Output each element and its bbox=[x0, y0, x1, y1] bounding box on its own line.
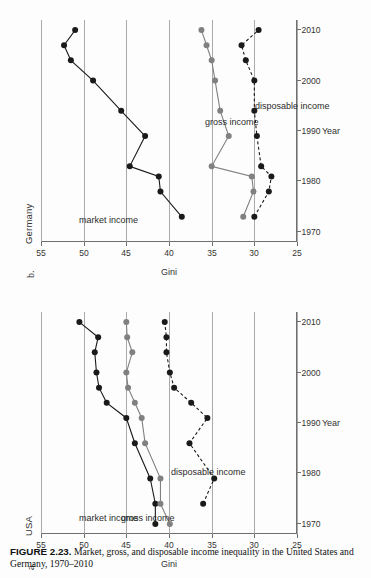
data-point bbox=[93, 370, 99, 376]
data-point bbox=[200, 501, 206, 507]
x-tick-label-1990: 1990 bbox=[301, 418, 320, 428]
data-point bbox=[186, 440, 192, 446]
x-tick-1970 bbox=[297, 523, 301, 524]
figure-plate: a. USA Gini Year 55504540353025197019801… bbox=[21, 0, 351, 578]
data-point bbox=[161, 319, 167, 325]
x-axis-title-germany: Year bbox=[321, 126, 339, 136]
data-point bbox=[138, 415, 144, 421]
data-point bbox=[129, 349, 135, 355]
data-point bbox=[126, 163, 132, 169]
series-label-disposable: disposable income bbox=[254, 101, 329, 111]
plot-area-usa: Gini Year 555045403530251970198019902000… bbox=[41, 312, 297, 534]
y-tick-label-45: 45 bbox=[121, 249, 130, 259]
data-point bbox=[225, 133, 231, 139]
y-tick-45 bbox=[126, 242, 127, 246]
data-point bbox=[96, 385, 102, 391]
data-point bbox=[250, 189, 256, 195]
data-point bbox=[253, 133, 259, 139]
x-tick-label-2010: 2010 bbox=[301, 317, 320, 327]
data-point bbox=[123, 370, 129, 376]
data-point bbox=[198, 27, 204, 33]
data-point bbox=[91, 349, 97, 355]
x-tick-1970 bbox=[297, 231, 301, 232]
series-line-market-income bbox=[79, 322, 155, 524]
y-tick-label-55: 55 bbox=[36, 249, 45, 259]
data-point bbox=[240, 214, 246, 220]
data-point bbox=[131, 400, 137, 406]
data-point bbox=[125, 385, 131, 391]
x-tick-label-1990: 1990 bbox=[301, 126, 320, 136]
y-tick-45 bbox=[126, 534, 127, 538]
panel-title-germany: Germany bbox=[23, 204, 34, 244]
y-axis-title-germany: Gini bbox=[160, 267, 176, 277]
x-axis-title-usa: Year bbox=[321, 418, 339, 428]
data-point bbox=[155, 173, 161, 179]
x-tick-1990 bbox=[297, 422, 301, 423]
data-point bbox=[163, 334, 169, 340]
series-label-gross: gross income bbox=[120, 513, 174, 523]
panel-title-usa: USA bbox=[23, 516, 34, 536]
data-point bbox=[72, 27, 78, 33]
x-tick-2010 bbox=[297, 29, 301, 30]
y-tick-label-25: 25 bbox=[292, 249, 301, 259]
data-point bbox=[166, 370, 172, 376]
data-point bbox=[208, 57, 214, 63]
data-point bbox=[238, 42, 244, 48]
data-point bbox=[268, 173, 274, 179]
x-tick-2000 bbox=[297, 80, 301, 81]
x-tick-2010 bbox=[297, 321, 301, 322]
x-tick-1980 bbox=[297, 180, 301, 181]
plot-area-germany: Gini Year 555045403530251970198019902000… bbox=[41, 20, 297, 242]
y-tick-label-40: 40 bbox=[164, 249, 173, 259]
x-tick-label-2000: 2000 bbox=[301, 76, 320, 86]
data-point bbox=[157, 476, 163, 482]
data-point bbox=[131, 440, 137, 446]
y-tick-40 bbox=[169, 534, 170, 538]
y-tick-55 bbox=[41, 534, 42, 538]
panel-letter-b: b. bbox=[25, 271, 36, 279]
y-tick-40 bbox=[169, 242, 170, 246]
panel-germany: b. Germany Gini Year 5550454035302519701… bbox=[21, 8, 351, 278]
data-point bbox=[124, 334, 130, 340]
y-tick-35 bbox=[211, 534, 212, 538]
x-tick-label-2010: 2010 bbox=[301, 25, 320, 35]
figure-page: a. USA Gini Year 55504540353025197019801… bbox=[0, 0, 371, 578]
series-canvas bbox=[41, 312, 297, 534]
x-tick-label-2000: 2000 bbox=[301, 368, 320, 378]
data-point bbox=[217, 108, 223, 114]
data-point bbox=[157, 189, 163, 195]
data-point bbox=[76, 319, 82, 325]
y-tick-30 bbox=[254, 242, 255, 246]
y-tick-35 bbox=[211, 242, 212, 246]
data-point bbox=[203, 42, 209, 48]
series-label-gross: gross income bbox=[205, 117, 259, 127]
data-point bbox=[242, 57, 248, 63]
y-tick-label-30: 30 bbox=[249, 249, 258, 259]
y-tick-25 bbox=[297, 242, 298, 246]
y-tick-label-50: 50 bbox=[78, 249, 87, 259]
data-point bbox=[61, 42, 67, 48]
data-point bbox=[123, 319, 129, 325]
y-tick-30 bbox=[254, 534, 255, 538]
data-point bbox=[103, 400, 109, 406]
series-label-disposable: disposable income bbox=[171, 467, 246, 477]
data-point bbox=[251, 78, 257, 84]
x-tick-2000 bbox=[297, 372, 301, 373]
data-point bbox=[67, 57, 73, 63]
x-tick-1980 bbox=[297, 472, 301, 473]
data-point bbox=[163, 349, 169, 355]
panel-usa: a. USA Gini Year 55504540353025197019801… bbox=[21, 300, 351, 570]
figure-number: FIGURE 2.23. bbox=[10, 546, 72, 557]
x-tick-label-1970: 1970 bbox=[301, 519, 320, 529]
data-point bbox=[265, 189, 271, 195]
series-line-market-income bbox=[64, 30, 182, 217]
data-point bbox=[142, 440, 148, 446]
y-tick-25 bbox=[297, 534, 298, 538]
figure-caption: FIGURE 2.23. Market, gross, and disposab… bbox=[0, 546, 371, 578]
data-point bbox=[208, 163, 214, 169]
y-tick-50 bbox=[83, 242, 84, 246]
series-canvas bbox=[41, 20, 297, 242]
y-tick-50 bbox=[83, 534, 84, 538]
data-point bbox=[212, 78, 218, 84]
series-label-market: market income bbox=[78, 215, 137, 225]
